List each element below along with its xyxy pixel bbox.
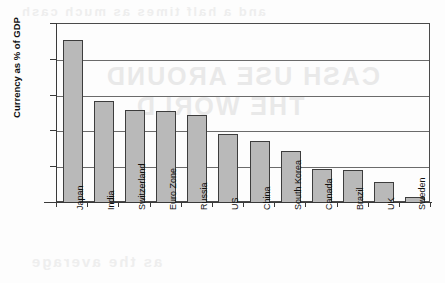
category-label-russia: Russia <box>200 182 209 210</box>
x-tick-3 <box>150 202 151 207</box>
bar-us <box>218 134 238 203</box>
bar-japan <box>63 40 83 203</box>
category-label-us: US <box>231 197 240 210</box>
x-tick-10 <box>368 202 369 207</box>
category-label-south-korea: South Korea <box>294 160 303 210</box>
gridline-15 <box>57 96 429 97</box>
category-label-euro-zone: Euro Zone <box>169 168 178 210</box>
x-tick-4 <box>181 202 182 207</box>
y-axis-title: Currency as % of GDP <box>11 8 22 128</box>
category-label-brazil: Brazil <box>356 187 365 210</box>
y-tick-20 <box>50 59 56 60</box>
x-tick-12 <box>430 202 431 207</box>
bleed-through-text-bottom: as the average <box>30 253 162 270</box>
y-tick-25 <box>50 23 56 24</box>
category-label-india: India <box>107 190 116 210</box>
x-tick-9 <box>337 202 338 207</box>
x-tick-7 <box>274 202 275 207</box>
y-tick-5 <box>50 166 56 167</box>
x-tick-2 <box>118 202 119 207</box>
bleed-through-text-top: and a half times as much cash <box>20 4 266 19</box>
x-tick-0 <box>56 202 57 207</box>
y-tick-15 <box>50 95 56 96</box>
category-label-switzerland: Switzerland <box>138 163 147 210</box>
category-label-japan: Japan <box>76 185 85 210</box>
x-tick-8 <box>305 202 306 207</box>
category-label-china: China <box>263 186 272 210</box>
x-tick-1 <box>87 202 88 207</box>
category-label-canada: Canada <box>325 178 334 210</box>
y-tick-10 <box>50 130 56 131</box>
chart-page: and a half times as much cash CASH USE A… <box>0 0 445 283</box>
category-label-uk: UK <box>387 197 396 210</box>
bar-india <box>94 101 114 203</box>
gridline-20 <box>57 60 429 61</box>
y-axis-line <box>56 23 57 203</box>
plot-area <box>56 23 430 202</box>
x-tick-5 <box>212 202 213 207</box>
x-tick-11 <box>399 202 400 207</box>
x-tick-6 <box>243 202 244 207</box>
category-label-sweden: Sweden <box>418 177 427 210</box>
